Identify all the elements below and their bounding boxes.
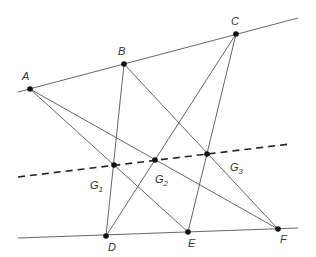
points-layer (27, 31, 281, 239)
label-G1: G1 (90, 179, 103, 194)
label-F: F (280, 233, 288, 245)
label-B: B (118, 45, 125, 57)
point-G1 (111, 162, 117, 168)
point-E (185, 229, 191, 235)
label-subscript: 3 (239, 167, 244, 176)
line-CE (188, 34, 236, 232)
pappus-diagram: ABCDEFG1G2G3 (0, 0, 316, 257)
point-A (27, 86, 33, 92)
line-BD (106, 64, 124, 236)
top-line (18, 18, 298, 92)
point-C (233, 31, 239, 37)
point-G3 (204, 151, 210, 157)
label-G3: G3 (230, 161, 244, 176)
label-G2: G2 (155, 173, 169, 188)
lines-layer (18, 18, 298, 238)
labels-layer: ABCDEFG1G2G3 (21, 15, 288, 253)
label-C: C (231, 15, 239, 27)
label-E: E (188, 237, 196, 249)
label-D: D (108, 241, 116, 253)
point-D (103, 233, 109, 239)
label-subscript: 1 (99, 185, 103, 194)
point-F (275, 226, 281, 232)
label-A: A (21, 70, 29, 82)
bottom-line (18, 228, 298, 238)
point-G2 (152, 157, 158, 163)
point-B (121, 61, 127, 67)
label-subscript: 2 (163, 179, 169, 188)
